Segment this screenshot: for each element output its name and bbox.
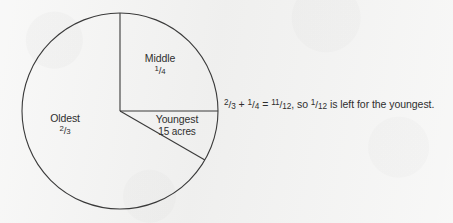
pie-slice-label-oldest: Oldest 2/3 [32,113,98,137]
annotation-text-so: , so [291,98,311,110]
figure-canvas: Middle 1/4 Oldest 2/3 Youngest 15 acres … [0,0,453,223]
annotation-fraction-eleven-twelfths: 11/12 [271,98,291,111]
annotation-operator-plus: + [236,98,248,110]
annotation-fraction-one-fourth: 1/4 [248,98,260,111]
annotation-fraction-one-twelfth: 1/12 [311,98,327,111]
pie-slice-label-youngest: Youngest 15 acres [139,114,215,137]
pie-slice-label-youngest-amount: 15 acres [139,126,215,137]
annotation-operator-equals: = [259,98,271,110]
pie-slice-label-middle-name: Middle [130,53,190,65]
annotation-text-tail: is left for the youngest. [327,98,434,110]
pie-slice-label-oldest-fraction: 2/3 [59,125,70,137]
annotation-fraction-two-thirds: 2/3 [224,98,236,111]
pie-slice-label-middle: Middle 1/4 [130,53,190,77]
pie-slice-label-oldest-name: Oldest [32,113,98,125]
pie-annotation-text: 2/3 + 1/4 = 11/12, so 1/12 is left for t… [224,98,434,111]
pie-slice-label-youngest-name: Youngest [139,114,215,126]
pie-slice-label-middle-fraction: 1/4 [154,65,165,77]
